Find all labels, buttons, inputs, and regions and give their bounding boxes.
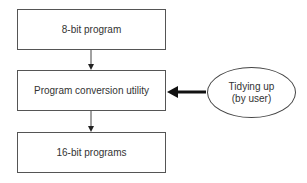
node-16bit-programs: 16-bit programs [17, 132, 166, 173]
arrow-tidying-to-conversion [167, 86, 206, 98]
node-label: 16-bit programs [56, 147, 126, 158]
node-label: Program conversion utility [34, 85, 149, 96]
node-tidying-up: Tidying up (by user) [207, 67, 296, 118]
node-label-line1: Tidying up [229, 81, 275, 93]
node-label-line2: (by user) [232, 93, 271, 105]
arrow-8bit-to-conversion [88, 50, 94, 70]
node-label: 8-bit program [62, 24, 121, 35]
node-program-conversion-utility: Program conversion utility [17, 70, 166, 111]
arrow-conversion-to-16bit [88, 111, 94, 132]
node-8bit-program: 8-bit program [17, 9, 166, 50]
